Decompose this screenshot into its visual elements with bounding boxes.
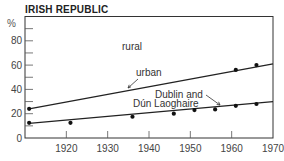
x-tick-label: 1970 [262, 143, 284, 154]
data-point [234, 104, 238, 108]
annotation-rural: rural [122, 41, 142, 52]
x-tick-label: 1920 [55, 143, 78, 154]
data-point [254, 102, 258, 106]
x-tick-label: 1960 [221, 143, 244, 154]
y-tick-label: 80 [11, 35, 23, 46]
data-point [234, 68, 238, 72]
y-axis-ticks: 020406080 [11, 29, 33, 144]
data-point [213, 107, 217, 111]
annotation-dublin-line2: Dún Laoghaire [133, 98, 199, 109]
y-tick-label: 60 [11, 60, 23, 71]
annotation-urban-arrow [128, 79, 138, 88]
chart: IRISH REPUBLIC % 020406080 1920193019401… [0, 0, 284, 161]
y-tick-label: 20 [11, 108, 23, 119]
data-point [130, 115, 134, 119]
chart-title: IRISH REPUBLIC [25, 4, 108, 15]
annotation-dublin-arrow [206, 95, 220, 105]
data-point [172, 112, 176, 116]
y-tick-label: 0 [16, 133, 22, 144]
data-point [254, 63, 258, 67]
annotation-urban: urban [136, 67, 162, 78]
x-tick-label: 1930 [97, 143, 120, 154]
x-tick-label: 1940 [138, 143, 161, 154]
x-tick-label: 1950 [179, 143, 202, 154]
y-axis-unit-label: % [7, 18, 16, 29]
annotations: rural urban Dublin and Dún Laoghaire [122, 41, 220, 109]
y-tick-label: 40 [11, 84, 23, 95]
data-point [68, 121, 72, 125]
data-point [27, 121, 31, 125]
x-axis-ticks: 192019301940195019601970 [55, 131, 284, 154]
data-point [27, 107, 31, 111]
